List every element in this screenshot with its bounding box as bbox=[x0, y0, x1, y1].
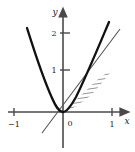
y-axis-label: y bbox=[51, 7, 58, 17]
origin-label: 0 bbox=[67, 119, 72, 128]
tick-label-y-2: 2 bbox=[51, 29, 56, 38]
tick-label-x-neg1: −1 bbox=[8, 120, 20, 129]
figure-canvas: y x −1 1 1 2 0 bbox=[0, 0, 135, 152]
tick-label-x-pos1: 1 bbox=[109, 120, 114, 129]
x-axis-label: x bbox=[124, 116, 129, 126]
tick-label-y-1: 1 bbox=[51, 66, 56, 75]
secant-line bbox=[42, 29, 120, 133]
graph-svg: y x −1 1 1 2 0 bbox=[0, 0, 135, 152]
